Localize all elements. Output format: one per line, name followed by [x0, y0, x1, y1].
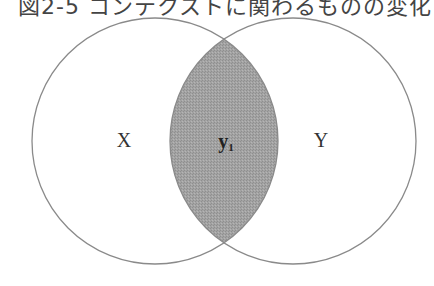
venn-diagram [0, 0, 434, 286]
intersection-label-subscript: 1 [228, 141, 234, 153]
intersection-label: y1 [218, 130, 234, 153]
set-y-label: Y [314, 129, 328, 152]
set-x-label: X [117, 129, 131, 152]
intersection-region [170, 18, 416, 264]
intersection-label-main: y [218, 130, 228, 152]
